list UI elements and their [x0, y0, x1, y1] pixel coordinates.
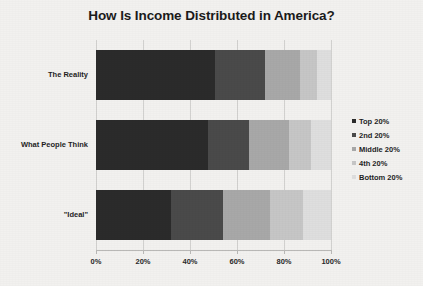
legend-label: Top 20%	[359, 117, 389, 126]
bar-segment	[249, 120, 289, 170]
chart-legend: Top 20%2nd 20%Middle 20%4th 20%Bottom 20…	[352, 114, 422, 184]
bar-segment	[289, 120, 311, 170]
x-axis-tick	[331, 250, 332, 254]
legend-label: 2nd 20%	[359, 131, 389, 140]
x-axis-tick-label: 0%	[91, 257, 102, 266]
bar-segment	[311, 120, 331, 170]
bar-segment	[96, 120, 208, 170]
legend-item[interactable]: 4th 20%	[352, 156, 422, 170]
legend-item[interactable]: Top 20%	[352, 114, 422, 128]
x-axis-tick	[284, 250, 285, 254]
x-axis-tick	[237, 250, 238, 254]
bar-row	[96, 190, 331, 240]
legend-item[interactable]: Middle 20%	[352, 142, 422, 156]
legend-swatch-icon	[352, 147, 356, 151]
x-axis-tick	[96, 250, 97, 254]
chart-title: How Is Income Distributed in America?	[0, 8, 423, 23]
bar-segment	[317, 50, 331, 100]
x-axis-tick-label: 100%	[321, 257, 340, 266]
bar-segment	[303, 190, 331, 240]
bar-segment	[223, 190, 270, 240]
legend-swatch-icon	[352, 119, 356, 123]
legend-swatch-icon	[352, 133, 356, 137]
income-distribution-chart: How Is Income Distributed in America? 0%…	[0, 0, 423, 286]
legend-swatch-icon	[352, 161, 356, 165]
legend-label: Bottom 20%	[359, 173, 402, 182]
legend-item[interactable]: Bottom 20%	[352, 170, 422, 184]
bar-segment	[171, 190, 223, 240]
bar-segment	[265, 50, 300, 100]
bar-segment	[96, 190, 171, 240]
category-label: What People Think	[0, 140, 88, 149]
category-label: "Ideal"	[0, 210, 88, 219]
bar-segment	[270, 190, 303, 240]
bar-segment	[96, 50, 215, 100]
legend-item[interactable]: 2nd 20%	[352, 128, 422, 142]
legend-swatch-icon	[352, 175, 356, 179]
x-axis-tick	[190, 250, 191, 254]
category-label: The Reality	[0, 70, 88, 79]
bar-segment	[300, 50, 316, 100]
x-axis-tick-label: 60%	[229, 257, 244, 266]
x-axis-tick	[143, 250, 144, 254]
bar-segment	[208, 120, 249, 170]
legend-label: 4th 20%	[359, 159, 387, 168]
x-axis-line	[96, 250, 332, 251]
x-axis-tick-label: 20%	[135, 257, 150, 266]
x-axis-tick-label: 80%	[276, 257, 291, 266]
bar-segment	[215, 50, 266, 100]
bar-row	[96, 50, 331, 100]
plot-area	[96, 40, 331, 250]
x-axis-tick-label: 40%	[182, 257, 197, 266]
legend-label: Middle 20%	[359, 145, 400, 154]
bar-row	[96, 120, 331, 170]
gridline	[331, 40, 332, 250]
